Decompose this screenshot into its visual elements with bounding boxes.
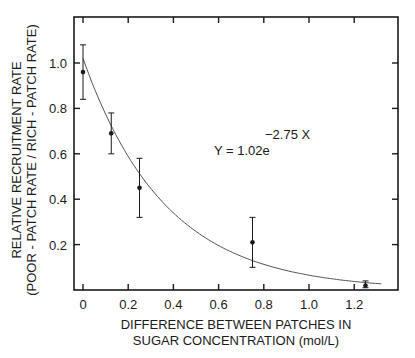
y-tick-label: 1.0 bbox=[49, 56, 67, 71]
x-tick-label: 0.6 bbox=[210, 297, 228, 312]
marker bbox=[363, 283, 368, 288]
x-axis-title-line2: SUGAR CONCENTRATION (mol/L) bbox=[133, 333, 339, 348]
marker bbox=[81, 70, 86, 75]
y-axis-title-line2: (POOR - PATCH RATE / RICH - PATCH RATE) bbox=[24, 24, 39, 296]
x-tick-label: 1.2 bbox=[345, 297, 363, 312]
chart: 00.20.40.60.81.01.2 0.20.40.60.81.0 Y = … bbox=[0, 0, 415, 358]
data-point bbox=[137, 158, 143, 217]
marker bbox=[137, 186, 142, 191]
x-axis-ticks: 00.20.40.60.81.01.2 bbox=[79, 17, 363, 312]
x-axis-title-line1: DIFFERENCE BETWEEN PATCHES IN bbox=[121, 317, 352, 332]
y-tick-label: 0.4 bbox=[49, 192, 67, 207]
equation-base: Y = 1.02e bbox=[214, 143, 270, 158]
equation-exponent: −2.75 X bbox=[265, 127, 311, 142]
y-tick-label: 0.6 bbox=[49, 147, 67, 162]
marker bbox=[109, 131, 114, 136]
x-tick-label: 1.0 bbox=[300, 297, 318, 312]
x-tick-label: 0.4 bbox=[164, 297, 182, 312]
data-point bbox=[80, 45, 86, 99]
fit-curve bbox=[83, 59, 381, 284]
x-tick-label: 0.8 bbox=[255, 297, 273, 312]
x-tick-label: 0.2 bbox=[119, 297, 137, 312]
x-tick-label: 0 bbox=[79, 297, 86, 312]
data-point bbox=[108, 113, 114, 154]
y-tick-label: 0.2 bbox=[49, 238, 67, 253]
y-tick-label: 0.8 bbox=[49, 101, 67, 116]
marker bbox=[250, 240, 255, 245]
data-points bbox=[80, 45, 369, 288]
y-axis-title-line1: RELATIVE RECRUITMENT RATE bbox=[9, 61, 24, 259]
